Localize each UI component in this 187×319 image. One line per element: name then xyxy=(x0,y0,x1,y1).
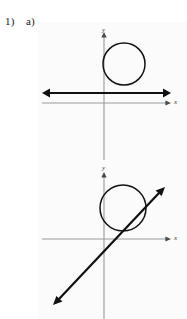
lower-x-axis-label: x xyxy=(174,235,177,242)
lower-x-axis xyxy=(42,236,171,241)
lower-y-axis-label: y xyxy=(102,165,105,172)
lower-figure-graphic xyxy=(0,0,187,319)
lower-secant-line xyxy=(53,187,165,305)
lower-circle xyxy=(100,185,146,231)
figure-page: 1) a) y x xyxy=(0,0,187,319)
